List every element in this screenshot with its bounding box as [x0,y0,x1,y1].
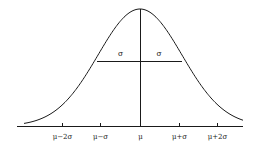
tick-label-mu-plus-sigma: μ+σ [172,133,187,141]
axis-ticks: μ−2σ μ−σ μ μ+σ μ+2σ [53,123,228,141]
sigma-right-label: σ [156,49,161,58]
normal-distribution-diagram: σ σ μ−2σ μ−σ μ μ+σ μ+2σ [0,0,257,146]
tick-label-mu-minus-sigma: μ−σ [93,133,108,141]
tick-label-mu-plus-2sigma: μ+2σ [208,133,228,141]
bell-curve [24,9,243,123]
tick-label-mu-minus-2sigma: μ−2σ [53,133,73,141]
tick-label-mu: μ [138,133,143,141]
sigma-left-label: σ [118,49,123,58]
